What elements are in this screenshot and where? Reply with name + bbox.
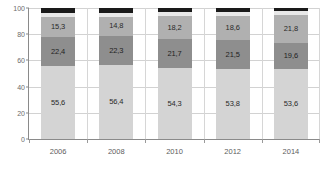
- y-axis-tick-label: 20: [17, 109, 25, 116]
- bar-value-label: 54,3: [167, 100, 181, 108]
- bar-value-label: 22,4: [51, 48, 65, 56]
- bar-segment-series-3-2006[interactable]: 15,3: [41, 17, 75, 37]
- bar-value-label: 15,3: [51, 23, 65, 31]
- bar-segment-series-1-2014[interactable]: 53,6: [274, 69, 308, 139]
- y-tick-mark: [26, 112, 29, 113]
- bar-segment-series-2-2012[interactable]: 21,5: [216, 40, 250, 68]
- y-axis-tick-label: 40: [17, 83, 25, 90]
- y-axis-tick-label: 60: [17, 57, 25, 64]
- bar-segment-series-3-2010[interactable]: 18,2: [158, 16, 192, 40]
- x-tick-mark: [262, 139, 263, 143]
- bar-2012[interactable]: 53,821,518,6: [216, 8, 250, 139]
- bar-segment-series-4-2014[interactable]: [274, 11, 308, 14]
- bar-segment-series-1-2008[interactable]: 56,4: [99, 65, 133, 139]
- x-tick-mark: [29, 139, 30, 143]
- bar-value-label: 21,5: [226, 51, 240, 59]
- x-gridline: [145, 8, 146, 139]
- bar-segment-series-2-2010[interactable]: 21,7: [158, 39, 192, 67]
- x-axis-tick-label: 2014: [283, 147, 300, 156]
- bar-segment-series-2-2008[interactable]: 22,3: [99, 36, 133, 65]
- bar-value-label: 21,7: [167, 50, 181, 58]
- bar-segment-series-3-2008[interactable]: 14,8: [99, 17, 133, 36]
- x-gridline: [319, 8, 320, 139]
- x-tick-mark: [145, 139, 146, 143]
- bar-2006[interactable]: 55,622,415,3: [41, 8, 75, 139]
- bar-segment-series-5-2012[interactable]: [216, 8, 250, 12]
- x-axis-tick-label: 2010: [166, 147, 183, 156]
- bar-value-label: 14,8: [109, 22, 123, 30]
- bar-value-label: 21,8: [284, 25, 298, 33]
- x-gridline: [262, 8, 263, 139]
- bar-value-label: 19,6: [284, 52, 298, 60]
- y-tick-mark: [26, 86, 29, 87]
- x-tick-mark: [87, 139, 88, 143]
- bar-segment-series-2-2006[interactable]: 22,4: [41, 37, 75, 66]
- bar-2014[interactable]: 53,619,621,8: [274, 8, 308, 139]
- x-gridline: [87, 8, 88, 139]
- bar-value-label: 56,4: [109, 98, 123, 106]
- bar-segment-series-4-2006[interactable]: [41, 13, 75, 17]
- stacked-bar-chart: 020406080100200655,622,415,3200856,422,3…: [0, 0, 329, 169]
- y-tick-mark: [26, 8, 29, 9]
- bar-segment-series-5-2014[interactable]: [274, 8, 308, 11]
- bar-segment-series-1-2010[interactable]: 54,3: [158, 68, 192, 139]
- bar-segment-series-4-2010[interactable]: [158, 12, 192, 16]
- x-axis-tick-label: 2008: [108, 147, 125, 156]
- bar-value-label: 18,2: [167, 24, 181, 32]
- bar-value-label: 18,6: [226, 24, 240, 32]
- bar-value-label: 53,6: [284, 100, 298, 108]
- bar-segment-series-4-2012[interactable]: [216, 12, 250, 16]
- bar-segment-series-5-2006[interactable]: [41, 8, 75, 13]
- bar-segment-series-5-2010[interactable]: [158, 8, 192, 12]
- bar-segment-series-3-2014[interactable]: 21,8: [274, 15, 308, 44]
- x-axis-tick-label: 2006: [50, 147, 67, 156]
- x-axis-tick-label: 2012: [224, 147, 241, 156]
- bar-2010[interactable]: 54,321,718,2: [158, 8, 192, 139]
- y-axis-tick-label: 0: [21, 136, 25, 143]
- bar-segment-series-4-2008[interactable]: [99, 13, 133, 17]
- x-tick-mark: [319, 139, 320, 143]
- y-axis-tick-label: 80: [17, 31, 25, 38]
- bar-segment-series-3-2012[interactable]: 18,6: [216, 16, 250, 40]
- bar-segment-series-5-2008[interactable]: [99, 8, 133, 13]
- bar-segment-series-2-2014[interactable]: 19,6: [274, 43, 308, 69]
- bar-segment-series-1-2006[interactable]: 55,6: [41, 66, 75, 139]
- x-tick-mark: [204, 139, 205, 143]
- y-axis-tick-label: 100: [13, 5, 25, 12]
- bar-2008[interactable]: 56,422,314,8: [99, 8, 133, 139]
- plot-area: 020406080100200655,622,415,3200856,422,3…: [28, 8, 320, 140]
- y-tick-mark: [26, 60, 29, 61]
- bar-segment-series-1-2012[interactable]: 53,8: [216, 69, 250, 139]
- y-tick-mark: [26, 34, 29, 35]
- bar-value-label: 53,8: [226, 100, 240, 108]
- bar-value-label: 22,3: [109, 47, 123, 55]
- x-gridline: [204, 8, 205, 139]
- bar-value-label: 55,6: [51, 99, 65, 107]
